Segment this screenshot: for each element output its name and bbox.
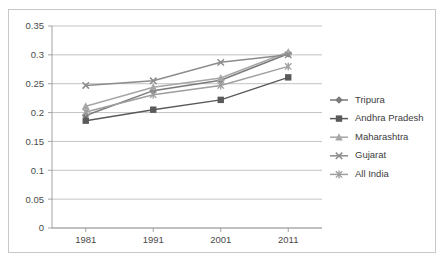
legend-item-maharashtra[interactable]: Maharashtra xyxy=(330,131,409,142)
data-point-square xyxy=(150,106,156,112)
legend-item-gujarat[interactable]: Gujarat xyxy=(330,149,387,160)
data-point-square xyxy=(285,74,291,80)
y-tick-labels: 00.050.10.150.20.250.30.35 xyxy=(26,20,45,233)
y-tick-label: 0 xyxy=(39,222,44,233)
data-point-square xyxy=(83,117,89,123)
series-tripura xyxy=(82,50,292,119)
y-tick-label: 0.2 xyxy=(31,107,44,118)
chart-legend: TripuraAndhra PradeshMaharashtraGujaratA… xyxy=(330,94,424,179)
legend-label: Gujarat xyxy=(355,149,387,160)
legend-label: Tripura xyxy=(355,94,385,105)
data-point-square xyxy=(336,115,342,121)
legend-item-all-india[interactable]: All India xyxy=(330,168,390,179)
y-tick-label: 0.35 xyxy=(26,20,45,31)
legend-label: All India xyxy=(355,168,390,179)
line-chart: 00.050.10.150.20.250.30.35 1981199120012… xyxy=(0,0,448,267)
legend-label: Maharashtra xyxy=(355,131,409,142)
data-point-square xyxy=(218,97,224,103)
x-tick-label: 2011 xyxy=(278,234,298,245)
y-tick-label: 0.15 xyxy=(26,136,45,147)
y-tick-label: 0.3 xyxy=(31,49,44,60)
y-tick-label: 0.05 xyxy=(26,194,45,205)
series-line xyxy=(86,52,289,106)
y-axis xyxy=(48,26,52,228)
legend-label: Andhra Pradesh xyxy=(355,112,424,123)
series-all-india xyxy=(83,62,292,116)
y-tick-label: 0.25 xyxy=(26,78,45,89)
x-tick-label: 2001 xyxy=(210,234,231,245)
y-tick-label: 0.1 xyxy=(31,165,44,176)
data-point-diamond xyxy=(335,96,343,104)
x-tick-labels: 1981199120012011 xyxy=(75,234,298,245)
x-axis xyxy=(52,228,322,232)
chart-container: 00.050.10.150.20.250.30.35 1981199120012… xyxy=(0,0,448,267)
legend-item-tripura[interactable]: Tripura xyxy=(330,94,385,105)
series-line xyxy=(86,55,289,86)
legend-item-andhra-pradesh[interactable]: Andhra Pradesh xyxy=(330,112,424,123)
x-tick-label: 1991 xyxy=(143,234,164,245)
x-tick-label: 1981 xyxy=(75,234,96,245)
